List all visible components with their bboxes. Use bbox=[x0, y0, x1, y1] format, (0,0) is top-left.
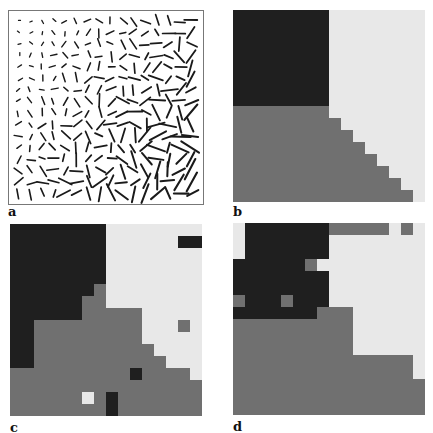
grid-cell bbox=[118, 368, 130, 380]
grid-cell bbox=[106, 380, 118, 392]
grid-cell bbox=[257, 82, 269, 94]
grid-cell bbox=[329, 82, 341, 94]
grid-cell bbox=[413, 22, 425, 34]
orientation-bar bbox=[165, 187, 170, 199]
grid-cell bbox=[245, 22, 257, 34]
grid-cell bbox=[329, 34, 341, 46]
grid-cell bbox=[401, 403, 413, 415]
orientation-bar bbox=[131, 179, 140, 185]
grid-cell bbox=[317, 34, 329, 46]
grid-cell bbox=[353, 259, 365, 271]
grid-cell bbox=[142, 284, 154, 296]
grid-cell bbox=[293, 130, 305, 142]
orientation-bar bbox=[161, 89, 178, 91]
grid-cell bbox=[377, 319, 389, 331]
grid-cell bbox=[58, 284, 70, 296]
grid-cell bbox=[377, 130, 389, 142]
orientation-bar bbox=[72, 190, 82, 195]
grid-cell bbox=[377, 142, 389, 154]
grid-cell bbox=[233, 46, 245, 58]
grid-cell bbox=[341, 379, 353, 391]
grid-cell bbox=[389, 319, 401, 331]
grid-cell bbox=[269, 94, 281, 106]
grid-cell bbox=[34, 368, 46, 380]
orientation-bar bbox=[30, 21, 32, 22]
grid-cell bbox=[293, 247, 305, 259]
grid-cell bbox=[46, 332, 58, 344]
grid-cell bbox=[130, 260, 142, 272]
grid-cell bbox=[10, 392, 22, 404]
grid-cell bbox=[106, 368, 118, 380]
orientation-bar bbox=[141, 76, 148, 81]
orientation-bar bbox=[164, 42, 172, 47]
grid-cell bbox=[130, 332, 142, 344]
grid-cell bbox=[293, 142, 305, 154]
grid-cell bbox=[353, 166, 365, 178]
grid-cell bbox=[389, 22, 401, 34]
grid-cell bbox=[305, 70, 317, 82]
grid-cell bbox=[257, 259, 269, 271]
grid-cell bbox=[365, 34, 377, 46]
grid-cell bbox=[233, 403, 245, 415]
grid-cell bbox=[329, 379, 341, 391]
grid-cell bbox=[413, 319, 425, 331]
orientation-bar bbox=[107, 42, 113, 44]
orientation-bar bbox=[161, 180, 175, 181]
grid-cell bbox=[70, 272, 82, 284]
grid-cell bbox=[389, 118, 401, 130]
grid-cell bbox=[377, 367, 389, 379]
grid-cell bbox=[293, 82, 305, 94]
grid-cell bbox=[389, 70, 401, 82]
orientation-bar bbox=[54, 76, 56, 80]
orientation-bar bbox=[17, 31, 19, 32]
grid-cell bbox=[245, 34, 257, 46]
orientation-bar bbox=[116, 111, 128, 117]
grid-cell bbox=[401, 247, 413, 259]
grid-cell bbox=[341, 343, 353, 355]
grid-cell bbox=[118, 392, 130, 404]
grid-cell bbox=[353, 118, 365, 130]
grid-cell bbox=[293, 10, 305, 22]
grid-cell bbox=[166, 392, 178, 404]
orientation-bar bbox=[108, 175, 113, 187]
grid-cell bbox=[353, 154, 365, 166]
orientation-bar bbox=[188, 61, 192, 77]
grid-cell bbox=[353, 283, 365, 295]
grid-cell bbox=[257, 94, 269, 106]
grid-cell bbox=[365, 70, 377, 82]
grid-cell bbox=[154, 392, 166, 404]
grid-cell bbox=[245, 58, 257, 70]
grid-cell bbox=[245, 106, 257, 118]
orientation-bar bbox=[42, 97, 45, 105]
grid-cell bbox=[142, 308, 154, 320]
grid-cell bbox=[10, 332, 22, 344]
grid-cell bbox=[341, 367, 353, 379]
grid-cell bbox=[341, 190, 353, 202]
orientation-bar bbox=[63, 73, 66, 82]
grid-cell bbox=[389, 235, 401, 247]
grid-cell bbox=[281, 247, 293, 259]
grid-cell bbox=[34, 236, 46, 248]
grid-cell bbox=[34, 248, 46, 260]
grid-cell bbox=[353, 319, 365, 331]
orientation-bar bbox=[186, 87, 196, 92]
panel-a-frame bbox=[8, 10, 204, 205]
grid-cell bbox=[142, 236, 154, 248]
grid-cell bbox=[305, 343, 317, 355]
orientation-bar bbox=[49, 143, 55, 150]
grid-cell bbox=[305, 379, 317, 391]
grid-cell bbox=[130, 224, 142, 236]
grid-cell bbox=[281, 259, 293, 271]
orientation-bar bbox=[27, 182, 36, 185]
grid-cell bbox=[106, 236, 118, 248]
grid-cell bbox=[365, 331, 377, 343]
grid-cell bbox=[166, 368, 178, 380]
grid-cell bbox=[281, 379, 293, 391]
grid-cell bbox=[353, 22, 365, 34]
grid-cell bbox=[329, 223, 341, 235]
grid-cell bbox=[269, 46, 281, 58]
grid-cell bbox=[166, 380, 178, 392]
grid-cell bbox=[305, 154, 317, 166]
grid-cell bbox=[154, 236, 166, 248]
grid-cell bbox=[269, 247, 281, 259]
